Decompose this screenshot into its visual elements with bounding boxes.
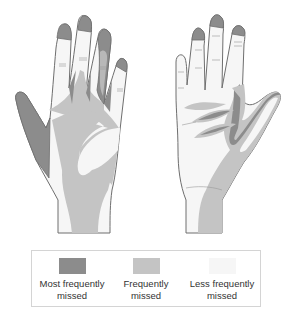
palm-of-hand [176, 15, 281, 233]
legend-label-line2: missed [32, 290, 112, 302]
legend-label-line2: missed [106, 290, 186, 302]
legend-label-most: Most frequently missed [32, 278, 112, 302]
palm-index-tip [192, 28, 205, 40]
legend-label-line1: Less frequently [182, 278, 262, 290]
legend-label-less: Less frequently missed [182, 278, 262, 302]
back-index-tip [57, 24, 71, 40]
legend-swatch-less [209, 258, 236, 274]
legend-label-line1: Most frequently [32, 278, 112, 290]
legend-label-frequent: Frequently missed [106, 278, 186, 302]
legend-item-most: Most frequently missed [32, 251, 112, 302]
legend-label-line2: missed [182, 290, 262, 302]
palm-middle-tip [210, 15, 224, 28]
legend-item-frequent: Frequently missed [106, 251, 186, 302]
legend: Most frequently missed Frequently missed… [31, 250, 261, 307]
legend-swatch-most [59, 258, 86, 274]
back-of-hand [16, 15, 127, 233]
hands-diagram [0, 0, 290, 240]
legend-swatch-frequent [133, 258, 160, 274]
back-thumb-most [16, 92, 50, 178]
legend-label-line1: Frequently [106, 278, 186, 290]
legend-item-less: Less frequently missed [182, 251, 262, 302]
